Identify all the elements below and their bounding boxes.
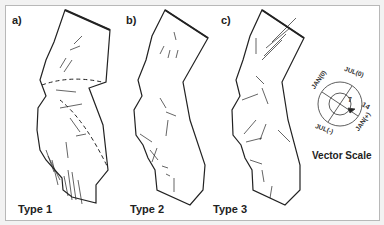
panel-c-map (232, 10, 304, 205)
vector-scale-dial (318, 82, 362, 126)
vector-scale-title: Vector Scale (312, 150, 371, 161)
type-label-1: Type 1 (18, 203, 52, 215)
scale-label-7: 7 (348, 96, 352, 103)
map-panels (0, 0, 384, 225)
panel-label-a: a) (12, 14, 22, 26)
panel-b-map (134, 10, 208, 205)
panel-label-c: c) (221, 14, 231, 26)
type-label-2: Type 2 (130, 203, 164, 215)
panel-label-b: b) (126, 14, 136, 26)
type-label-3: Type 3 (213, 203, 247, 215)
panel-a-map (37, 10, 110, 204)
